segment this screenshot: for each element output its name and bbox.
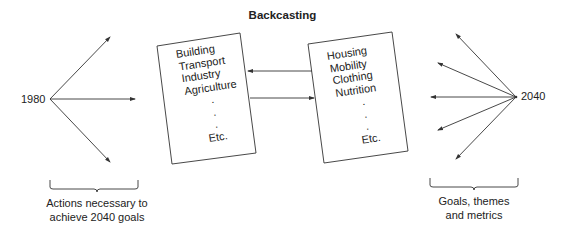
right-caption-line2: and metrics [414,208,534,222]
origin-point-2040 [515,96,518,99]
year-2040-label: 2040 [521,90,545,103]
diagram-title: Backcasting [0,9,565,21]
year-1980-label: 1980 [21,93,45,106]
right-brace [430,178,518,190]
right-caption-line1: Goals, themes [414,194,534,208]
left-caption-line1: Actions necessary to [37,196,157,210]
right-caption: Goals, themes and metrics [414,194,534,222]
left-fan-arrows [50,37,135,162]
between-box-arrows [248,71,314,98]
left-brace [50,180,138,192]
left-caption-line2: achieve 2040 goals [37,210,157,224]
left-caption: Actions necessary to achieve 2040 goals [37,196,157,224]
right-fan-arrows [431,34,516,159]
